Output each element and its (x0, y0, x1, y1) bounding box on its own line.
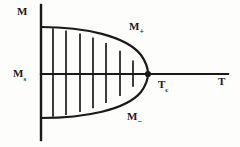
lower-branch-base: M (127, 110, 137, 122)
x-axis-label: T (218, 76, 225, 87)
diagram-canvas (0, 0, 240, 147)
spontaneous-magnetization-label: Ms (13, 68, 26, 82)
critical-temperature-subscript: c (165, 86, 168, 94)
lower-branch-label: M− (127, 111, 142, 125)
magnetization-phase-diagram: M Ms M+ M− Tc T (0, 0, 240, 147)
y-axis-label: M (17, 6, 27, 17)
critical-point-marker (145, 71, 151, 77)
spontaneous-magnetization-subscript: s (23, 75, 26, 83)
upper-branch-sign: + (139, 27, 144, 36)
critical-temperature-label: Tc (158, 79, 168, 93)
upper-branch-base: M (129, 20, 139, 32)
upper-branch-label: M+ (129, 21, 144, 35)
lower-branch-sign: − (137, 117, 142, 126)
spontaneous-magnetization-base: M (13, 67, 23, 79)
